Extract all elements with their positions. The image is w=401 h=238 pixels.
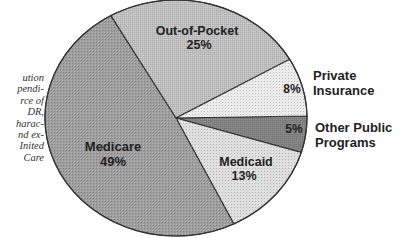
- pct-out-of-pocket: 25%: [186, 38, 211, 52]
- label-private-line1: Private: [313, 68, 356, 83]
- pct-other-public: 5%: [285, 122, 303, 136]
- label-medicaid: Medicaid: [219, 155, 273, 169]
- label-private-line2: Insurance: [313, 83, 374, 98]
- label-other-line1: Other Public: [315, 120, 392, 135]
- pie-chart: Out-of-Pocket 25% Medicare 49% Medicaid …: [0, 0, 401, 238]
- label-other-line2: Programs: [315, 135, 376, 150]
- pct-medicaid: 13%: [231, 169, 256, 183]
- pct-private-insurance: 8%: [283, 82, 301, 96]
- label-out-of-pocket: Out-of-Pocket: [156, 24, 239, 38]
- label-medicare: Medicare: [85, 139, 141, 154]
- pct-medicare: 49%: [100, 154, 126, 169]
